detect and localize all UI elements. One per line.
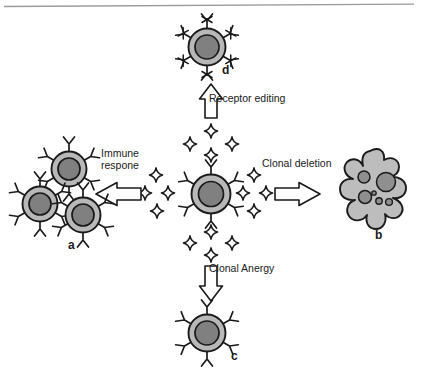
apoptotic-membrane bbox=[340, 149, 406, 229]
arrow-immune-response bbox=[96, 183, 141, 206]
cell-nucleus bbox=[72, 204, 94, 226]
cell-nucleus bbox=[195, 35, 219, 59]
label-clonal-deletion: Clonal deletion bbox=[262, 157, 331, 169]
arrow-clonal-deletion bbox=[275, 183, 320, 206]
cell-nucleus bbox=[195, 321, 219, 345]
panel-a-clone bbox=[10, 137, 114, 247]
panel-b-apoptotic-cell bbox=[340, 149, 406, 229]
immunology-figure: Receptor editing Clonal Anergy Clonal de… bbox=[0, 0, 423, 370]
figure-canvas bbox=[0, 0, 423, 370]
cell-nucleus bbox=[29, 193, 51, 215]
top-rule bbox=[4, 4, 414, 6]
panel-letter-b: b bbox=[375, 228, 382, 242]
cell-nucleus bbox=[199, 182, 224, 207]
center-immature-b-cell bbox=[179, 160, 243, 228]
cell-nucleus bbox=[58, 158, 80, 180]
panel-c-cell bbox=[176, 300, 239, 366]
label-immune-response: Immune respone bbox=[101, 148, 149, 171]
panel-letter-d: d bbox=[222, 63, 229, 77]
panel-letter-a: a bbox=[68, 238, 75, 252]
label-receptor-editing: Receptor editing bbox=[209, 92, 285, 104]
panel-letter-c: c bbox=[231, 349, 238, 363]
label-clonal-anergy: Clonal Anergy bbox=[209, 262, 274, 274]
